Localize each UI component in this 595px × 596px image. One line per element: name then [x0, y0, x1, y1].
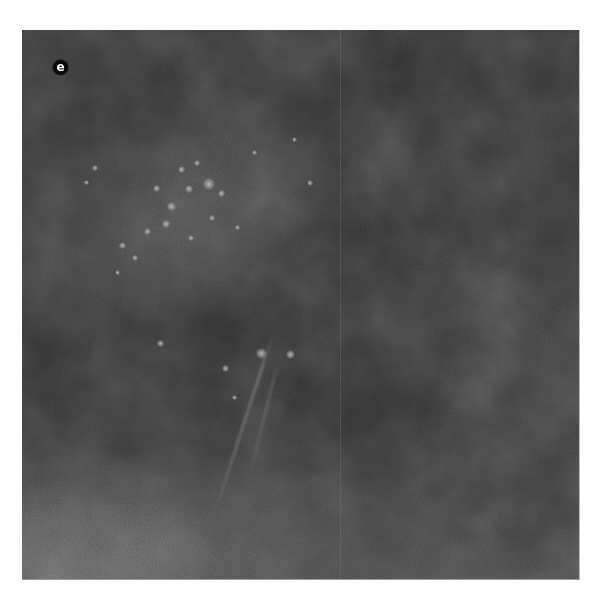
- calcification-spot: [203, 178, 215, 190]
- calcification-spot: [162, 220, 170, 228]
- detector-seam: [340, 30, 341, 579]
- calcification-spot: [194, 160, 200, 166]
- calcification-spot: [252, 150, 257, 155]
- calcification-spot: [157, 340, 164, 347]
- clipped-caption-remnant: [40, 0, 560, 12]
- calcification-spot: [256, 348, 267, 359]
- calcification-spot: [188, 235, 194, 241]
- calcification-spot: [119, 242, 126, 249]
- calcification-spot: [209, 215, 215, 221]
- calcification-spot: [218, 190, 225, 197]
- mottle-texture: [22, 30, 579, 579]
- calcification-spot: [286, 350, 295, 359]
- calcification-spot: [132, 255, 138, 261]
- calcification-spot: [92, 165, 98, 171]
- figure-page: e: [0, 0, 595, 596]
- calcification-spot: [292, 137, 297, 142]
- calcification-spot: [115, 270, 120, 275]
- calcification-spot: [222, 365, 229, 372]
- calcification-spot: [178, 166, 185, 173]
- calcification-spot: [235, 225, 240, 230]
- calcification-spot: [84, 180, 89, 185]
- calcification-spot: [167, 202, 176, 211]
- panel-label-badge: e: [53, 60, 68, 75]
- calcification-spot: [185, 185, 193, 193]
- calcification-spot: [232, 395, 237, 400]
- calcification-spot: [153, 185, 160, 192]
- calcification-spot: [144, 228, 151, 235]
- calcification-spot: [307, 180, 313, 186]
- radiograph-image: e: [22, 30, 580, 580]
